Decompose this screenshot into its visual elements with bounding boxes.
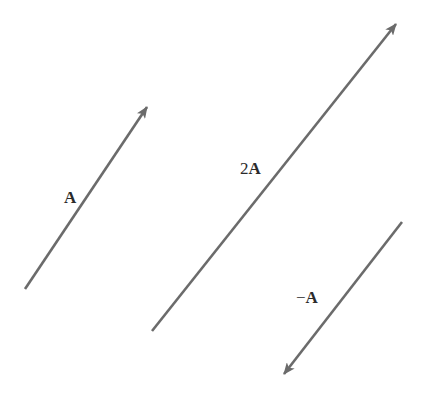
vector-negative-a-label: −A [296,289,318,306]
vector-2a-label-prefix: 2 [240,159,249,178]
vector-2a-label-symbol: A [249,159,261,178]
vector-2a-label: 2A [240,160,261,177]
vector-a-label-symbol: A [64,188,76,207]
vector-negative-a-label-symbol: A [306,288,318,307]
vector-a-label: A [64,189,76,206]
vector-negative-a-label-prefix: − [296,288,306,307]
vector-2a-arrow [152,24,396,331]
vector-a-arrow [25,107,147,289]
